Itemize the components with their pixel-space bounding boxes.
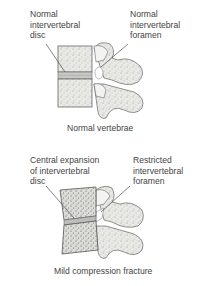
label-central-expansion: Central expansion of intervertebral disc bbox=[30, 155, 99, 187]
label-line: intervertebral bbox=[133, 166, 183, 177]
vertebrae-illustration bbox=[0, 0, 198, 286]
label-line: intervertebral bbox=[30, 20, 80, 31]
label-line: Restricted bbox=[133, 155, 183, 166]
label-line: foramen bbox=[130, 30, 180, 41]
caption-normal-vertebrae: Normal vertebrae bbox=[67, 123, 133, 133]
label-normal-foramen: Normal intervertebral foramen bbox=[130, 9, 180, 41]
label-normal-disc: Normal intervertebral disc bbox=[30, 9, 80, 41]
label-line: disc bbox=[30, 30, 80, 41]
label-restricted-foramen: Restricted intervertebral foramen bbox=[133, 155, 183, 187]
caption-compression-fracture: Mild compression fracture bbox=[54, 266, 152, 276]
compression-fracture-drawing bbox=[46, 186, 143, 258]
normal-vertebrae-drawing bbox=[46, 43, 143, 119]
label-line: foramen bbox=[133, 176, 183, 187]
label-line: Normal bbox=[130, 9, 180, 20]
label-line: disc bbox=[30, 176, 99, 187]
label-line: of intervertebral bbox=[30, 166, 99, 177]
label-line: Normal bbox=[30, 9, 80, 20]
label-line: intervertebral bbox=[130, 20, 180, 31]
label-line: Central expansion bbox=[30, 155, 99, 166]
